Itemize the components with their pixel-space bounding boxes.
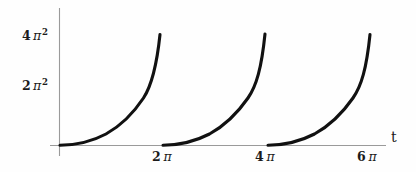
y-tick-label-2pi2: 2π2 (22, 78, 48, 93)
y-tick-label-4pi2: 4π2 (22, 28, 48, 43)
y-tick-2pi2-exponent: 2 (42, 77, 48, 87)
x-tick-6pi-coefficient: 6 (357, 149, 366, 164)
curve-segment-3 (268, 35, 370, 146)
x-tick-4pi-coefficient: 4 (255, 149, 264, 164)
plot-canvas (0, 0, 416, 172)
x-tick-4pi-pi-symbol: π (267, 149, 276, 164)
y-tick-4pi2-pi-symbol: π (33, 28, 42, 43)
x-tick-6pi-pi-symbol: π (369, 149, 378, 164)
y-tick-2pi2-pi-symbol: π (33, 78, 42, 93)
x-axis-name-label: t (391, 130, 397, 144)
x-tick-label-6pi: 6π (357, 151, 377, 164)
y-tick-4pi2-coefficient: 4 (22, 28, 31, 43)
x-tick-2pi-pi-symbol: π (164, 149, 173, 164)
curve-segment-1 (60, 35, 160, 146)
y-tick-4pi2-exponent: 2 (42, 27, 48, 37)
x-tick-label-4pi: 4π (255, 151, 275, 164)
curve-segment-2 (163, 34, 265, 145)
x-tick-2pi-coefficient: 2 (152, 149, 161, 164)
y-tick-2pi2-coefficient: 2 (22, 78, 31, 93)
plot-screenshot: 4π2 2π2 2π 4π 6π t (0, 0, 416, 172)
x-tick-label-2pi: 2π (152, 151, 172, 164)
